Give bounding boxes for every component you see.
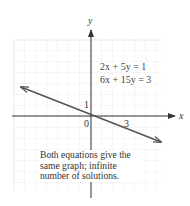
caption-box: Both equations give the same graph; infi… [40, 150, 144, 182]
caption-line-3: number of solutions. [40, 171, 144, 182]
x-axis-label: x [179, 111, 183, 121]
tick-label-y-1: 1 [84, 100, 89, 110]
caption-line-1: Both equations give the [40, 150, 144, 161]
y-axis-label: y [88, 16, 92, 26]
tick-label-x-3: 3 [124, 119, 129, 129]
origin-label: 0 [84, 119, 89, 129]
equation-label-2: 6x + 15y = 3 [99, 75, 152, 85]
equation-label-1: 2x + 5y = 1 [99, 62, 147, 72]
